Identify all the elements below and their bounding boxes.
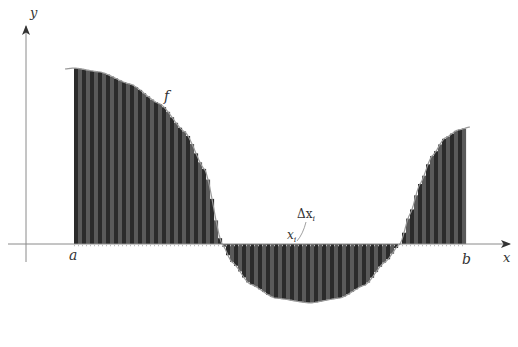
riemann-rectangle xyxy=(326,244,330,300)
riemann-rectangle xyxy=(322,244,326,301)
b-label: b xyxy=(462,251,471,267)
riemann-rectangle xyxy=(358,244,362,287)
riemann-sum-figure: y x f a b Δxi xi xyxy=(0,0,518,347)
riemann-rectangle xyxy=(178,128,182,244)
riemann-rectangle xyxy=(374,244,378,272)
riemann-rectangle xyxy=(190,144,194,244)
riemann-rectangle xyxy=(150,100,154,244)
riemann-rectangle xyxy=(106,75,110,244)
riemann-rectangle xyxy=(426,164,430,244)
riemann-rectangle xyxy=(206,180,210,244)
riemann-rectangle xyxy=(290,244,294,300)
delta-x-leader xyxy=(297,222,306,241)
riemann-rectangle xyxy=(270,244,274,297)
riemann-rectangle xyxy=(146,96,150,244)
riemann-rectangle xyxy=(194,153,198,244)
riemann-rectangle xyxy=(90,71,94,244)
riemann-rectangle xyxy=(294,244,298,301)
riemann-rectangle xyxy=(234,244,238,266)
delta-x-label: Δx xyxy=(297,207,313,221)
riemann-rectangle xyxy=(250,244,254,285)
riemann-rectangle xyxy=(94,72,98,244)
riemann-rectangle xyxy=(102,73,106,244)
riemann-rectangle xyxy=(130,85,134,244)
riemann-rectangle xyxy=(298,244,302,302)
riemann-rectangle xyxy=(362,244,366,285)
riemann-rectangle xyxy=(418,184,422,244)
riemann-rectangle xyxy=(318,244,322,302)
riemann-rectangle xyxy=(422,176,426,244)
function-label: f xyxy=(163,88,172,104)
riemann-rectangle xyxy=(82,69,86,244)
riemann-rectangle xyxy=(242,244,246,277)
riemann-rectangle xyxy=(166,112,170,244)
riemann-rectangle xyxy=(274,244,278,298)
riemann-rectangle xyxy=(310,244,314,303)
riemann-rectangle xyxy=(442,139,446,244)
riemann-rectangle xyxy=(162,107,166,244)
riemann-rectangles xyxy=(74,68,466,303)
riemann-rectangle xyxy=(458,130,462,244)
riemann-rectangle xyxy=(266,244,270,295)
riemann-rectangle xyxy=(126,84,130,244)
riemann-rectangle xyxy=(314,244,318,302)
riemann-rectangle xyxy=(354,244,358,289)
riemann-rectangle xyxy=(434,151,438,244)
riemann-rectangle xyxy=(254,244,258,287)
riemann-rectangle xyxy=(382,244,386,263)
riemann-rectangle xyxy=(454,131,458,244)
riemann-rectangle xyxy=(346,244,350,294)
delta-x-annotation: Δxi xyxy=(297,207,315,241)
riemann-rectangle xyxy=(246,244,250,282)
riemann-rectangle xyxy=(214,220,218,244)
riemann-rectangle xyxy=(262,244,266,292)
y-axis-label: y xyxy=(29,5,38,20)
a-label: a xyxy=(69,247,77,263)
riemann-rectangle xyxy=(258,244,262,289)
riemann-rectangle xyxy=(154,102,158,244)
riemann-rectangle xyxy=(186,136,190,244)
riemann-rectangle xyxy=(378,244,382,267)
riemann-rectangle xyxy=(118,80,122,244)
riemann-rectangle xyxy=(122,82,126,244)
riemann-rectangle xyxy=(450,134,454,244)
riemann-rectangle xyxy=(306,244,310,303)
riemann-rectangle xyxy=(350,244,354,292)
svg-text:xi: xi xyxy=(287,228,297,244)
riemann-rectangle xyxy=(198,162,202,244)
riemann-rectangle xyxy=(338,244,342,298)
riemann-rectangle xyxy=(134,87,138,244)
riemann-rectangle xyxy=(182,131,186,244)
riemann-rectangle xyxy=(366,244,370,283)
riemann-rectangle xyxy=(410,209,414,244)
x-axis-label: x xyxy=(503,250,511,265)
x-i-annotation: xi xyxy=(287,228,297,244)
riemann-rectangle xyxy=(202,169,206,244)
riemann-rectangle xyxy=(330,244,334,299)
riemann-rectangle xyxy=(110,77,114,244)
riemann-rectangle xyxy=(86,70,90,244)
riemann-rectangle xyxy=(430,156,434,244)
riemann-rectangle xyxy=(78,69,82,244)
riemann-rectangle xyxy=(158,104,162,244)
riemann-rectangle xyxy=(438,144,442,244)
riemann-rectangle xyxy=(370,244,374,278)
riemann-rectangle xyxy=(462,129,466,245)
riemann-rectangle xyxy=(114,79,118,245)
riemann-rectangle xyxy=(286,244,290,300)
svg-text:Δxi: Δxi xyxy=(297,207,315,223)
riemann-rectangle xyxy=(282,244,286,299)
riemann-rectangle xyxy=(138,90,142,244)
riemann-rectangle xyxy=(302,244,306,302)
riemann-rectangle xyxy=(446,137,450,244)
riemann-rectangle xyxy=(342,244,346,297)
riemann-rectangle xyxy=(170,117,174,244)
riemann-rectangle xyxy=(142,93,146,244)
riemann-rectangle xyxy=(278,244,282,299)
riemann-rectangle xyxy=(98,72,102,244)
riemann-rectangle xyxy=(334,244,338,298)
riemann-rectangle xyxy=(74,68,78,244)
riemann-rectangle xyxy=(174,123,178,244)
riemann-rectangle xyxy=(238,244,242,271)
